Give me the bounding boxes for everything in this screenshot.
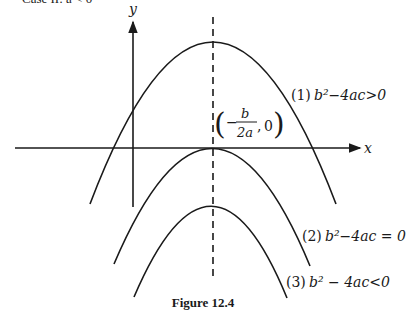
- svg-text:(3): (3): [286, 274, 306, 290]
- svg-text:(2): (2): [302, 228, 322, 244]
- svg-text:,: ,: [257, 118, 261, 134]
- svg-text:0: 0: [264, 118, 273, 134]
- svg-text:): ): [273, 106, 285, 141]
- svg-text:b² − 4ac<0: b² − 4ac<0: [309, 274, 390, 290]
- y-axis-label: y: [128, 1, 138, 17]
- figure-caption: Figure 12.4: [0, 295, 406, 311]
- curve-label-1: (1) b²−4ac>0: [291, 87, 386, 103]
- svg-text:(1): (1): [291, 87, 311, 103]
- svg-text:(: (: [214, 106, 226, 141]
- svg-text:−: −: [226, 114, 238, 130]
- svg-text:b²−4ac>0: b²−4ac>0: [314, 87, 386, 103]
- svg-text:2a: 2a: [236, 125, 253, 140]
- svg-text:b: b: [241, 106, 249, 121]
- parabola-2: [114, 148, 310, 266]
- parabola-diagram: y x ( − b 2a , 0 ) (1) b²−4ac>0 (2) b²−4…: [0, 0, 406, 315]
- x-axis-label: x: [364, 140, 372, 156]
- vertex-label: ( − b 2a , 0 ): [214, 106, 285, 141]
- svg-text:b²−4ac = 0: b²−4ac = 0: [325, 228, 406, 244]
- curve-label-3: (3) b² − 4ac<0: [286, 274, 390, 290]
- parabola-3: [134, 206, 287, 298]
- curve-label-2: (2) b²−4ac = 0: [302, 228, 406, 244]
